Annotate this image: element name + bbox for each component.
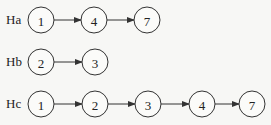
node-value: 1 [38,14,45,29]
list-row-hb: Hb23 [6,49,108,75]
node-value: 2 [38,56,45,71]
linked-list-diagram: Ha147Hb23Hc12347 [0,0,271,125]
node-value: 3 [92,56,99,71]
node-value: 7 [249,98,256,113]
row-label: Hc [6,96,21,111]
row-label: Ha [6,12,21,27]
node-value: 4 [199,98,206,113]
node-value: 4 [91,14,98,29]
list-row-ha: Ha147 [6,7,160,33]
node-value: 1 [38,98,45,113]
list-row-hc: Hc12347 [6,91,265,117]
node-value: 3 [145,98,152,113]
node-value: 2 [92,98,99,113]
row-label: Hb [6,54,22,69]
node-value: 7 [144,14,151,29]
